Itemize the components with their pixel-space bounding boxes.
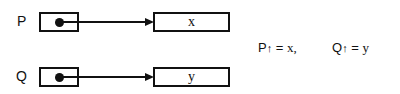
eq-q-rhs: y [362,40,369,55]
pointer-label-q: Q [16,68,27,84]
eq-p-lhs: P [258,40,267,55]
eq-p-rhs: x, [287,40,297,55]
target-cell-q: y [153,67,230,87]
target-cell-p: x [153,12,230,32]
arrow-line-p [60,21,145,23]
equation-q: Q↑ = y [332,40,369,56]
pointer-label-p: P [17,13,26,29]
equation-p: P↑ = x, [258,40,297,56]
eq-q-lhs: Q [332,40,342,55]
eq-p-equals: = [276,40,284,55]
up-arrow-icon: ↑ [342,42,348,54]
target-value-y: y [155,69,228,85]
eq-q-equals: = [351,40,359,55]
arrow-line-q [60,76,145,78]
target-value-x: x [155,14,228,30]
up-arrow-icon: ↑ [267,42,273,54]
